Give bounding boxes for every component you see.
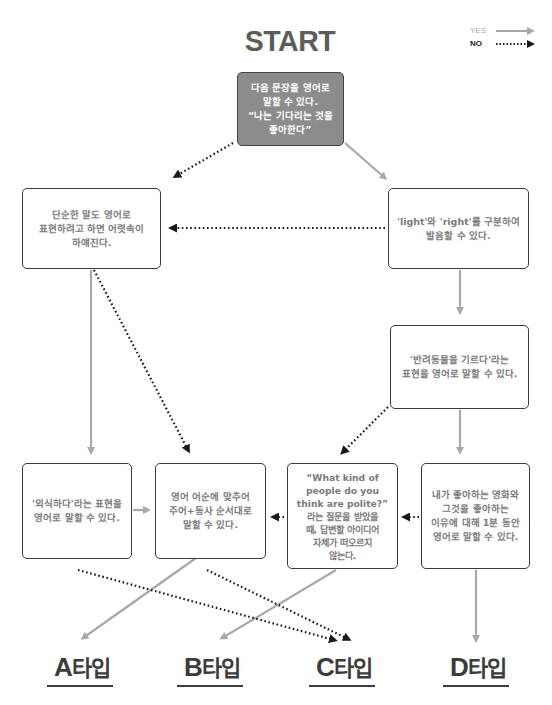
- node-simple-words: 단순한 말도 영어로 표현하려고 하면 어렷속이 하얘진다.: [22, 188, 161, 269]
- result-b-type: B타입: [177, 650, 247, 683]
- node-movie: 내가 좋아하는 영화와 그것을 좋아하는 이유에 대해 1분 동안 영어로 말할…: [421, 463, 530, 569]
- node-polite: “What kind of people do you think are po…: [287, 463, 398, 569]
- node-word-order: 영어 어순에 맞추어 주어+동사 순서대로 말할 수 있다.: [155, 463, 266, 559]
- result-c-underline: [309, 685, 375, 687]
- node-simple-words-text: 단순한 말도 영어로 표현하려고 하면 어렷속이 하얘진다.: [39, 208, 145, 250]
- result-a-suffix: 타입: [72, 656, 110, 681]
- node-movie-text: 내가 좋아하는 영화와 그것을 좋아하는 이유에 대해 1분 동안 영어로 말할…: [431, 488, 520, 544]
- start-node: 다음 문장을 영어로 말할 수 있다. “나는 기다리는 것을 좋아한다”: [237, 72, 344, 146]
- node-pet: '반려동물을 기르다'라는 표현을 영어로 말할 수 있다.: [390, 325, 529, 409]
- result-c-suffix: 타입: [334, 656, 372, 681]
- result-c-type: C타입: [309, 650, 379, 683]
- result-a-type: A타입: [47, 650, 117, 683]
- result-c-letter: C: [316, 652, 334, 682]
- result-a-letter: A: [54, 652, 72, 682]
- node-word-order-text: 영어 어순에 맞추어 주어+동사 순서대로 말할 수 있다.: [169, 490, 252, 532]
- node-light-right-text: 'light'와 'right'를 구분하여 발음할 수 있다.: [397, 215, 520, 243]
- result-d-suffix: 타입: [468, 656, 506, 681]
- result-b-letter: B: [184, 652, 202, 682]
- node-polite-text: “What kind of people do you think are po…: [297, 471, 388, 562]
- result-b-underline: [177, 685, 243, 687]
- result-b-suffix: 타입: [202, 656, 240, 681]
- start-node-text: 다음 문장을 영어로 말할 수 있다. “나는 기다리는 것을 좋아한다”: [248, 81, 333, 137]
- result-d-underline: [443, 685, 509, 687]
- node-light-right: 'light'와 'right'를 구분하여 발음할 수 있다.: [388, 188, 529, 269]
- node-eat-out: '외식하다'라는 표현을 영어로 말할 수 있다.: [22, 463, 132, 559]
- result-d-type: D타입: [443, 650, 513, 683]
- result-d-letter: D: [450, 652, 468, 682]
- node-eat-out-text: '외식하다'라는 표현을 영어로 말할 수 있다.: [32, 497, 122, 525]
- node-pet-text: '반려동물을 기르다'라는 표현을 영어로 말할 수 있다.: [402, 353, 518, 381]
- result-a-underline: [47, 685, 113, 687]
